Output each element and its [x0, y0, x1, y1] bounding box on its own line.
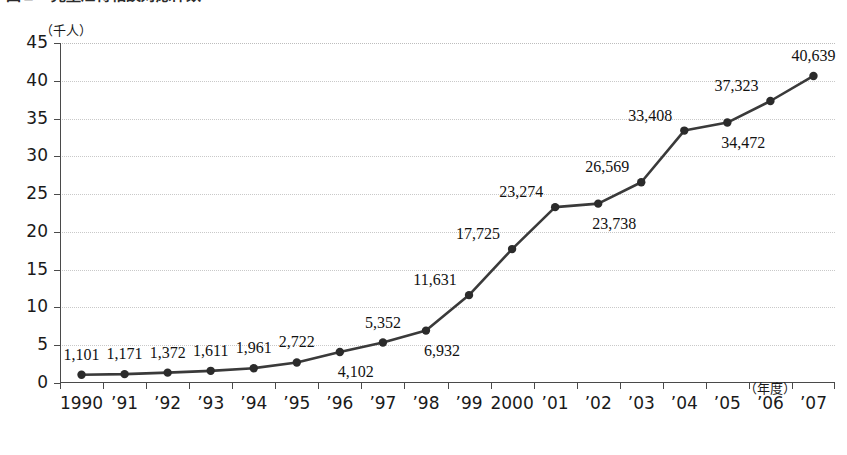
x-axis-label: ’91 — [111, 393, 138, 413]
data-point-marker — [422, 326, 430, 334]
y-axis-label: 20 — [14, 221, 48, 241]
x-axis-label: ’97 — [369, 393, 396, 413]
x-axis-tick — [706, 383, 707, 389]
x-axis-label: ’05 — [714, 393, 741, 413]
x-axis-tick — [232, 383, 233, 389]
data-point-marker — [809, 72, 817, 80]
x-axis-tick — [534, 383, 535, 389]
data-point-label: 1,611 — [193, 342, 228, 360]
y-axis-label: 35 — [14, 108, 48, 128]
x-axis-label: ’94 — [240, 393, 267, 413]
x-axis-tick — [577, 383, 578, 389]
x-axis-tick — [834, 383, 835, 389]
data-point-marker — [250, 364, 258, 372]
x-axis-label: ’04 — [671, 393, 698, 413]
y-axis-label: 10 — [14, 296, 48, 316]
data-point-label: 1,372 — [150, 344, 186, 362]
data-point-label: 1,961 — [236, 339, 272, 357]
data-point-label: 23,274 — [499, 183, 543, 201]
x-axis-tick — [491, 383, 492, 389]
x-axis-tick — [404, 383, 405, 389]
data-point-label: 1,171 — [107, 345, 143, 363]
data-point-label: 2,722 — [279, 333, 315, 351]
y-axis-label: 45 — [14, 32, 48, 52]
y-axis-label: 40 — [14, 70, 48, 90]
x-axis-label: 2000 — [490, 393, 533, 413]
y-axis-label: 0 — [14, 372, 48, 392]
y-axis-label: 25 — [14, 183, 48, 203]
plot-area: 051015202530354045 1990’91’92’93’94’95’9… — [60, 43, 835, 383]
data-point-marker — [120, 370, 128, 378]
figure-title: 図２ 児童虐待相談対応件数 — [0, 0, 847, 4]
data-point-marker — [336, 348, 344, 356]
x-axis-label: ’93 — [197, 393, 224, 413]
data-point-marker — [637, 178, 645, 186]
x-axis-label: ’02 — [585, 393, 612, 413]
x-axis-tick — [361, 383, 362, 389]
figure-title-strip: 図２ 児童虐待相談対応件数 — [0, 0, 847, 6]
data-point-marker — [723, 118, 731, 126]
data-point-marker — [508, 245, 516, 253]
x-axis-tick — [620, 383, 621, 389]
data-point-marker — [680, 126, 688, 134]
y-axis-label: 15 — [14, 259, 48, 279]
data-point-marker — [551, 203, 559, 211]
x-axis-tick — [663, 383, 664, 389]
data-point-label: 40,639 — [791, 47, 835, 65]
data-point-label: 33,408 — [628, 107, 672, 125]
data-point-marker — [465, 291, 473, 299]
x-axis-label: ’01 — [542, 393, 569, 413]
data-point-marker — [766, 97, 774, 105]
x-axis-label: ’95 — [283, 393, 310, 413]
x-axis-label: ’96 — [326, 393, 353, 413]
data-point-label: 6,932 — [424, 342, 460, 360]
data-point-marker — [206, 367, 214, 375]
x-axis-label: 1990 — [60, 393, 103, 413]
data-point-marker — [163, 368, 171, 376]
data-point-label: 4,102 — [338, 363, 374, 381]
data-point-label: 23,738 — [592, 215, 636, 233]
y-axis-label: 30 — [14, 145, 48, 165]
x-axis-tick — [189, 383, 190, 389]
data-point-label: 26,569 — [585, 158, 629, 176]
data-point-marker — [379, 338, 387, 346]
x-axis-tick — [275, 383, 276, 389]
x-axis-tick — [448, 383, 449, 389]
y-axis-label: 5 — [14, 334, 48, 354]
data-point-label: 11,631 — [413, 271, 456, 289]
data-point-marker — [594, 199, 602, 207]
data-point-label: 17,725 — [456, 225, 500, 243]
x-axis-label: ’99 — [455, 393, 482, 413]
x-axis-tick — [60, 383, 61, 389]
x-axis-tick — [146, 383, 147, 389]
x-axis-unit-label: （年度） — [744, 378, 796, 397]
x-axis-label: ’92 — [154, 393, 181, 413]
x-axis-label: ’03 — [628, 393, 655, 413]
chart-figure: 図２ 児童虐待相談対応件数 （千人） 051015202530354045 19… — [0, 0, 847, 455]
data-point-label: 37,323 — [714, 77, 758, 95]
data-point-marker — [77, 370, 85, 378]
x-axis-label: ’07 — [800, 393, 827, 413]
x-axis-tick — [318, 383, 319, 389]
data-point-marker — [293, 358, 301, 366]
data-point-label: 1,101 — [64, 346, 100, 364]
x-axis-label: ’98 — [412, 393, 439, 413]
data-point-label: 34,472 — [721, 134, 765, 152]
data-point-label: 5,352 — [365, 314, 401, 332]
x-axis-tick — [103, 383, 104, 389]
